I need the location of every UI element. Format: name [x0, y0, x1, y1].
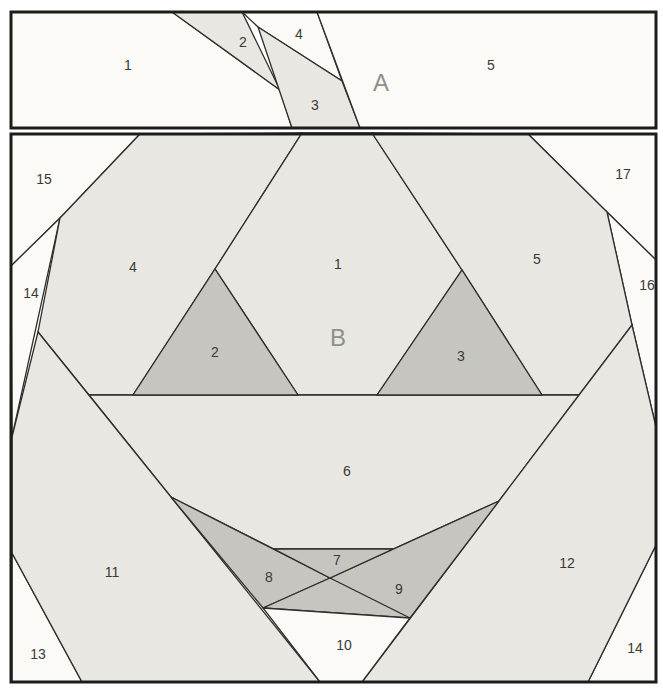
- piece-b17-number: 17: [615, 166, 631, 182]
- section-a: 1 2 3 4 5 A: [11, 12, 656, 128]
- piece-b1-number: 1: [334, 256, 342, 272]
- piece-b2-number: 2: [211, 344, 219, 360]
- section-a-label: A: [373, 69, 389, 96]
- piece-a3-number: 3: [311, 97, 319, 113]
- piece-a2-number: 2: [239, 34, 247, 50]
- pattern-canvas: 1 2 3 4 5 A: [0, 0, 663, 695]
- piece-b14-left-number: 14: [23, 285, 39, 301]
- piece-b7-number: 7: [333, 552, 341, 568]
- piece-b3-number: 3: [457, 348, 465, 364]
- piece-b4-number: 4: [129, 259, 137, 275]
- piece-b9-number: 9: [395, 581, 403, 597]
- piece-b13-number: 13: [30, 646, 46, 662]
- piece-a1-number: 1: [124, 57, 132, 73]
- piece-b6-number: 6: [343, 463, 351, 479]
- piece-b10-number: 10: [336, 637, 352, 653]
- section-b-label: B: [330, 324, 346, 351]
- piece-b14-right-number: 14: [627, 640, 643, 656]
- piece-b12-number: 12: [559, 555, 575, 571]
- piece-b16-number: 16: [639, 277, 655, 293]
- piece-b11-number: 11: [105, 564, 120, 580]
- piece-b8-number: 8: [265, 569, 273, 585]
- piece-a5-number: 5: [487, 57, 495, 73]
- piece-b5-number: 5: [533, 251, 541, 267]
- piece-b15-number: 15: [36, 171, 52, 187]
- piece-a4-number: 4: [295, 26, 303, 42]
- section-b: 15 14 4 1 5 17 16 2 3 6 7 8 9 10 11 12 1…: [11, 133, 656, 682]
- paper-piecing-pattern: 1 2 3 4 5 A: [0, 0, 663, 695]
